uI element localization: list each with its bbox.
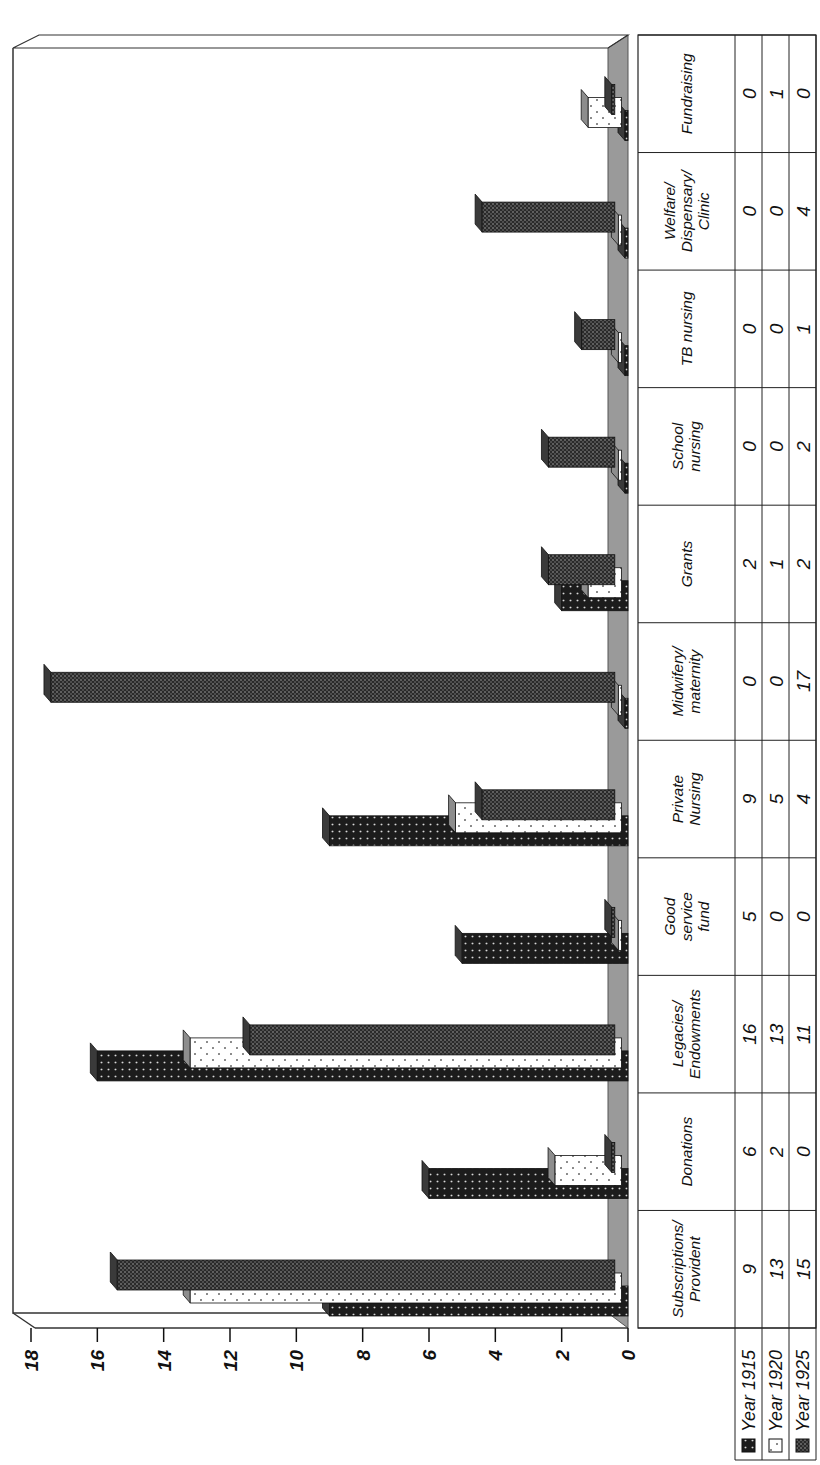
- category-label: Midwifery/maternity: [669, 645, 703, 716]
- y-tick-label: 6: [419, 1350, 440, 1361]
- table-cell-value: 4: [793, 206, 814, 217]
- table-cell-value: 9: [739, 793, 760, 804]
- category-label: Goodservicefund: [661, 892, 712, 941]
- table-cell-value: 0: [766, 441, 787, 452]
- table-cell-value: 13: [766, 1023, 787, 1045]
- y-tick-label: 14: [154, 1350, 175, 1372]
- legend-swatch-icon: [742, 1439, 755, 1452]
- table-cell-value: 0: [739, 206, 760, 217]
- legend-label: Year 1925: [793, 1349, 813, 1432]
- legend-label: Year 1915: [739, 1349, 759, 1432]
- y-tick-label: 10: [286, 1350, 307, 1372]
- category-label: Donations: [678, 1117, 695, 1187]
- table-cell-value: 1: [766, 88, 787, 99]
- bar: [44, 664, 615, 702]
- y-tick-label: 12: [220, 1350, 241, 1372]
- table-cell-value: 0: [793, 911, 814, 922]
- table-cell-value: 0: [793, 1146, 814, 1157]
- category-label: TB nursing: [678, 291, 695, 366]
- table-cell-value: 2: [766, 1146, 787, 1158]
- y-tick-label: 16: [87, 1350, 108, 1372]
- table-cell-value: 0: [766, 206, 787, 217]
- category-label: Schoolnursing: [669, 421, 703, 472]
- category-label: Welfare/Dispensary/Clinic: [661, 169, 712, 253]
- table-cell-value: 15: [793, 1258, 814, 1280]
- table-cell-value: 16: [739, 1023, 760, 1045]
- legend-swatch-icon: [796, 1439, 809, 1452]
- table-cell-value: 2: [793, 441, 814, 453]
- y-tick-label: 18: [21, 1350, 42, 1372]
- bar: [475, 194, 615, 232]
- table-cell-value: 17: [793, 670, 814, 693]
- y-tick-label: 4: [485, 1350, 506, 1362]
- table-cell-value: 0: [739, 676, 760, 687]
- bars: [44, 77, 628, 1316]
- legend-swatch-icon: [769, 1439, 782, 1452]
- bar: [541, 429, 614, 467]
- category-label: Grants: [678, 540, 695, 587]
- table-cell-value: 0: [739, 323, 760, 334]
- y-tick-label: 0: [618, 1350, 639, 1361]
- table-cell-value: 1: [766, 559, 787, 570]
- value-axis: 024681012141618: [21, 1328, 639, 1371]
- bar: [243, 1017, 615, 1055]
- table-cell-value: 6: [739, 1146, 760, 1157]
- bar: [110, 1252, 615, 1290]
- table-cell-value: 0: [739, 441, 760, 452]
- table-cell-value: 4: [793, 794, 814, 805]
- category-label: PrivateNursing: [669, 772, 703, 826]
- table-cell-value: 11: [793, 1024, 814, 1044]
- category-label: Fundraising: [678, 53, 695, 134]
- table-cell-value: 0: [766, 323, 787, 334]
- table-cell-value: 2: [739, 558, 760, 570]
- table-cell-value: 13: [766, 1258, 787, 1280]
- table-cell-value: 5: [739, 911, 760, 922]
- category-label: Subscriptions/Provident: [669, 1219, 703, 1318]
- table-cell-value: 0: [739, 88, 760, 99]
- y-tick-label: 8: [353, 1350, 374, 1361]
- table-cell-value: 0: [766, 676, 787, 687]
- bar-chart: 024681012141618 Subscriptions/ProvidentD…: [0, 0, 820, 1465]
- table-cell-value: 0: [793, 88, 814, 99]
- bar: [455, 925, 628, 963]
- table-cell-value: 5: [766, 793, 787, 804]
- bar: [541, 547, 614, 585]
- table-cell-value: 2: [793, 558, 814, 570]
- y-tick-label: 2: [552, 1350, 573, 1362]
- bar: [475, 782, 615, 820]
- legend-label: Year 1920: [766, 1350, 786, 1432]
- data-table: Subscriptions/ProvidentDonationsLegacies…: [638, 35, 816, 1460]
- table-cell-value: 9: [739, 1264, 760, 1275]
- category-label: Legacies/Endowments: [669, 989, 703, 1079]
- table-cell-value: 0: [766, 911, 787, 922]
- table-cell-value: 1: [793, 324, 814, 335]
- chart-canvas: 024681012141618 Subscriptions/ProvidentD…: [0, 0, 820, 1465]
